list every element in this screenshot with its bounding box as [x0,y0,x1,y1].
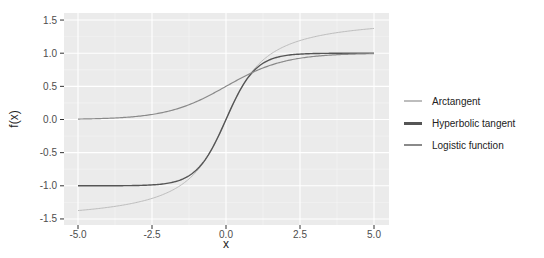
legend-label: Hyperbolic tangent [432,118,515,129]
x-tick-label: -5.0 [69,229,87,240]
legend-item-logistic-function: Logistic function [404,134,515,156]
legend: Arctangent Hyperbolic tangent Logistic f… [404,90,515,156]
y-tick-label: -1.0 [40,180,58,191]
y-tick-label: 0.0 [43,114,57,125]
x-tick-label: -2.5 [143,229,161,240]
legend-item-hyperbolic-tangent: Hyperbolic tangent [404,112,515,134]
y-tick-label: 0.5 [43,81,57,92]
y-axis-title: f(x) [7,110,21,127]
legend-label: Arctangent [432,96,480,107]
y-axis: -1.5-1.0-0.50.00.51.01.5 [40,15,64,225]
y-tick-label: -1.5 [40,213,58,224]
legend-label: Logistic function [432,140,504,151]
legend-item-arctangent: Arctangent [404,90,515,112]
y-tick-label: 1.5 [43,15,57,26]
legend-key-hyperbolic-tangent [404,122,422,125]
x-axis-title: x [223,237,229,251]
y-tick-label: -0.5 [40,147,58,158]
x-tick-label: 5.0 [367,229,381,240]
x-tick-label: 2.5 [293,229,307,240]
y-tick-label: 1.0 [43,48,57,59]
legend-key-logistic-function [404,144,422,146]
legend-key-arctangent [404,100,422,102]
